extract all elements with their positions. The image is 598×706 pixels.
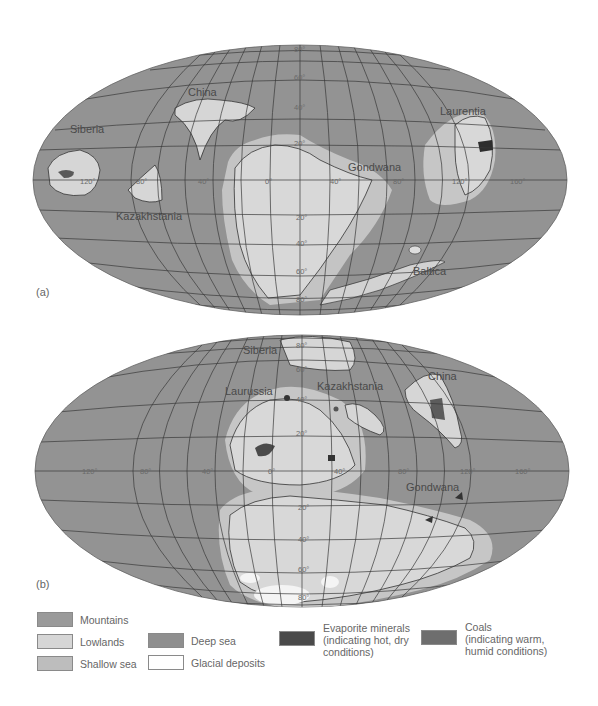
lon-label: 0° <box>268 467 275 476</box>
legend-swatch-mountains <box>37 612 73 627</box>
lat-label: 20° <box>296 429 307 438</box>
legend-label-glacial: Glacial deposits <box>191 657 265 669</box>
continent-label-siberia: Siberia <box>243 344 278 356</box>
paleogeographic-map-b: 80° 60° 40° 20° 120° 80° 40° 0° 40° 80° … <box>0 320 598 610</box>
legend-swatch-evaporite <box>279 631 315 646</box>
lat-label: 40° <box>294 103 305 112</box>
continent-label-gondwana: Gondwana <box>348 161 402 173</box>
continent-label-china: China <box>428 370 458 382</box>
legend-swatch-coals <box>421 630 457 645</box>
map-b-graphic: 80° 60° 40° 20° 120° 80° 40° 0° 40° 80° … <box>0 320 598 610</box>
lon-label: 80° <box>393 177 404 186</box>
lat-label: 40° <box>296 395 307 404</box>
lat-label: 20° <box>296 213 307 222</box>
lon-label: 0° <box>265 177 272 186</box>
legend-label-coals: Coals (indicating warm, humid conditions… <box>465 621 547 657</box>
legend-swatch-glacial <box>148 655 184 670</box>
lon-label: 40° <box>330 177 341 186</box>
legend-swatch-shallow-sea <box>37 656 73 671</box>
lon-label: 80° <box>140 467 151 476</box>
legend-label-deep-sea: Deep sea <box>191 635 236 647</box>
continent-label-laurentia: Laurentia <box>440 105 487 117</box>
panel-label-b: (b) <box>36 578 49 590</box>
lat-label: 80° <box>296 341 307 350</box>
continent-label-laurussia: Laurussia <box>225 385 274 397</box>
legend-swatch-deep-sea <box>148 633 184 648</box>
lat-label: 60° <box>298 565 309 574</box>
lon-label: 40° <box>334 467 345 476</box>
lat-label: 40° <box>298 535 309 544</box>
paleogeographic-map-a: 80° 60° 40° 20° 120° 80° 40° 0° 40° 80° … <box>0 0 598 320</box>
lat-label: 20° <box>294 139 305 148</box>
legend-label-evaporite: Evaporite minerals (indicating hot, dry … <box>323 622 410 658</box>
lat-label: 80° <box>296 295 307 304</box>
lon-label: 40° <box>198 177 209 186</box>
legend-swatch-lowlands <box>37 634 73 649</box>
lat-label: 60° <box>296 267 307 276</box>
lon-label: 160° <box>510 177 526 186</box>
lon-label: 120° <box>82 467 98 476</box>
lon-label: 80° <box>398 467 409 476</box>
continent-label-siberia: Siberia <box>70 123 105 135</box>
legend-label-shallow-sea: Shallow sea <box>80 658 137 670</box>
map-legend: Mountains Lowlands Shallow sea Deep sea … <box>0 600 598 706</box>
continent-label-china: China <box>188 86 218 98</box>
lat-label: 60° <box>294 73 305 82</box>
legend-label-mountains: Mountains <box>80 614 128 626</box>
lon-label: 120° <box>460 467 476 476</box>
lon-label: 80° <box>136 177 147 186</box>
map-a-graphic: 80° 60° 40° 20° 120° 80° 40° 0° 40° 80° … <box>0 0 598 320</box>
lat-label: 60° <box>296 365 307 374</box>
lon-label: 160° <box>515 467 531 476</box>
lat-label: 40° <box>296 239 307 248</box>
legend-label-lowlands: Lowlands <box>80 636 124 648</box>
continent-label-kazakhstania: Kazakhstania <box>116 210 183 222</box>
continent-label-kazakhstania: Kazakhstania <box>317 380 384 392</box>
continent-label-baltica: Baltica <box>413 265 447 277</box>
panel-label-a: (a) <box>36 286 49 298</box>
lat-label: 20° <box>298 503 309 512</box>
lat-label: 80° <box>294 45 305 54</box>
lon-label: 40° <box>202 467 213 476</box>
lon-label: 120° <box>452 177 468 186</box>
lon-label: 120° <box>80 177 96 186</box>
continent-label-gondwana: Gondwana <box>406 481 460 493</box>
